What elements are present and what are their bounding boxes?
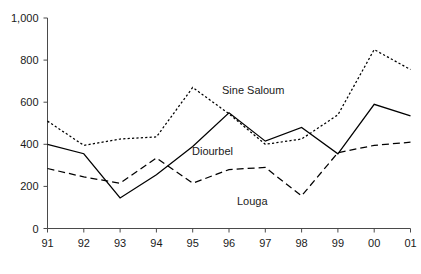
x-tick-label: 94 [150,237,162,249]
y-tick-label: 600 [20,96,38,108]
data-series-group [48,50,411,198]
chart-plot-area: 02004006008001,000 919293949596979899000… [0,0,421,274]
x-tick-label: 98 [295,237,307,249]
series-label-sine-saloum: Sine Saloum [222,84,284,96]
y-tick-label: 200 [20,180,38,192]
x-tick-label: 91 [41,237,53,249]
y-tick-label: 400 [20,138,38,150]
x-tick-label: 92 [78,237,90,249]
series-line-sine-saloum [48,50,411,146]
y-axis-tick-labels: 02004006008001,000 [11,12,39,235]
y-tick-label: 1,000 [11,12,39,24]
x-tick-label: 95 [187,237,199,249]
x-tick-label: 99 [332,237,344,249]
y-tick-label: 800 [20,54,38,66]
series-annotations: Sine SaloumDiourbelLouga [192,84,284,207]
y-axis-ticks [44,18,48,229]
y-tick-label: 0 [32,223,38,235]
x-tick-label: 01 [404,237,416,249]
x-axis-tick-labels: 9192939495969798990001 [41,237,416,249]
series-label-louga: Louga [237,195,268,207]
x-tick-label: 97 [259,237,271,249]
y-axis: 02004006008001,000 [11,12,48,235]
x-tick-label: 93 [114,237,126,249]
x-tick-label: 96 [223,237,235,249]
line-chart-figure: 02004006008001,000 919293949596979899000… [0,0,421,274]
x-tick-label: 00 [368,237,380,249]
series-label-diourbel: Diourbel [192,145,233,157]
x-axis-ticks [48,229,411,233]
x-axis: 9192939495969798990001 [41,229,416,249]
